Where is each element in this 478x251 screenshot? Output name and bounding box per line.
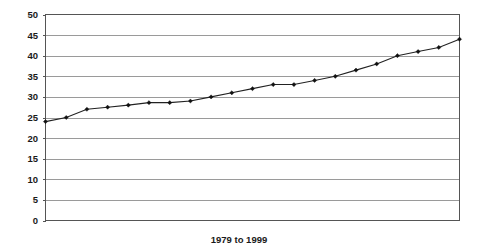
y-tick-label-0: 0 xyxy=(33,215,38,226)
y-tick-label-15: 15 xyxy=(27,153,38,164)
y-tick-label-30: 30 xyxy=(27,91,38,102)
y-tick-label-25: 25 xyxy=(27,112,38,123)
x-axis-title: 1979 to 1999 xyxy=(211,234,268,245)
y-tick-label-45: 45 xyxy=(27,30,38,41)
y-tick-label-40: 40 xyxy=(27,50,38,61)
y-tick-label-35: 35 xyxy=(27,71,38,82)
y-tick-label-5: 5 xyxy=(33,194,39,205)
y-tick-label-20: 20 xyxy=(27,133,38,144)
line-chart: 05101520253035404550 1979 to 1999 xyxy=(0,0,478,251)
chart-background xyxy=(0,0,478,251)
chart-canvas: 05101520253035404550 1979 to 1999 xyxy=(0,0,478,251)
y-tick-label-50: 50 xyxy=(27,9,38,20)
y-tick-label-10: 10 xyxy=(27,174,38,185)
